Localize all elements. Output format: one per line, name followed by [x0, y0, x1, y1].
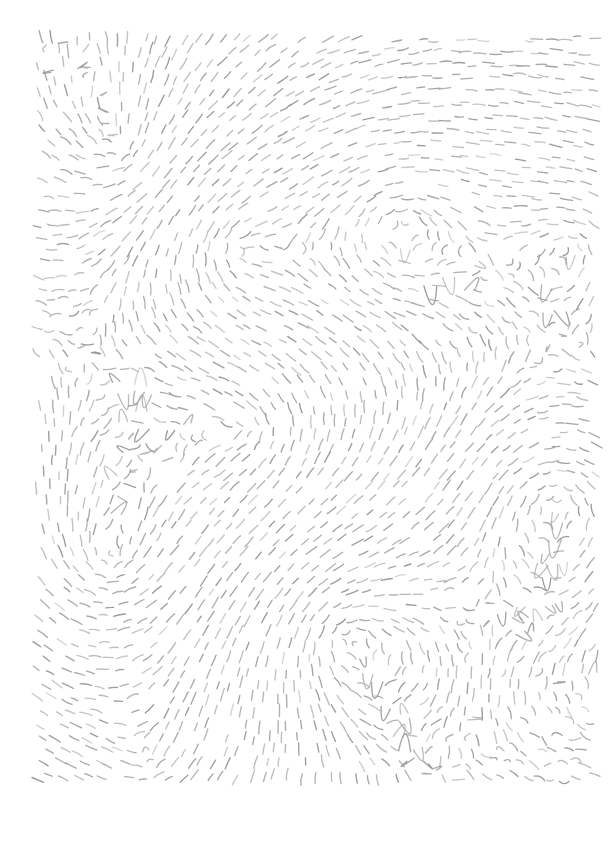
artwork-canvas: Flow Field Dash Pattern: [0, 0, 613, 842]
flow-field-svg: [0, 0, 613, 842]
